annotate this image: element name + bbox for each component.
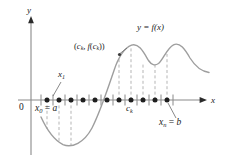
sample-dot [57, 98, 62, 103]
sample-dot [153, 98, 158, 103]
sample-dot [45, 98, 50, 103]
x-axis-label: x [211, 96, 215, 105]
xn-leader-line [168, 103, 176, 118]
x-axis-arrowhead [200, 97, 207, 103]
sample-dot [93, 98, 98, 103]
riemann-sum-figure: y x 0 x0 = a x1 ck xn = b (ck, f(ck)) y … [0, 0, 225, 162]
figure-canvas [0, 0, 225, 162]
right-endpoint-value: b [177, 117, 182, 127]
origin-label: 0 [19, 103, 24, 113]
sample-dot [105, 98, 110, 103]
curve-point-close-parens: )) [99, 41, 105, 51]
x1-leader-line [53, 82, 61, 96]
curve-point-label: (ck, f(ck)) [74, 42, 105, 51]
y-axis-label: y [27, 6, 31, 15]
sample-dot [81, 98, 86, 103]
right-endpoint-label: xn = b [159, 118, 181, 128]
sample-dot [129, 98, 134, 103]
function-label: y = f(x) [137, 23, 164, 32]
sample-dot [141, 98, 146, 103]
right-endpoint-equals: = [166, 117, 176, 127]
left-endpoint-label: x0 = a [35, 104, 57, 114]
sample-dot [69, 98, 74, 103]
left-endpoint-equals: = [42, 103, 52, 113]
y-axis-arrowhead [28, 16, 34, 23]
sample-point-subscript: k [130, 108, 133, 114]
left-endpoint-value: a [53, 103, 58, 113]
sample-dot [117, 98, 122, 103]
curve-point-marker [118, 53, 121, 56]
first-partition-subscript: 1 [62, 74, 65, 80]
first-partition-label: x1 [58, 70, 65, 79]
sample-point-label: ck [126, 104, 133, 113]
sample-dot [165, 98, 170, 103]
y-axis-group [28, 16, 34, 155]
curve-point-leader-line [120, 48, 127, 54]
